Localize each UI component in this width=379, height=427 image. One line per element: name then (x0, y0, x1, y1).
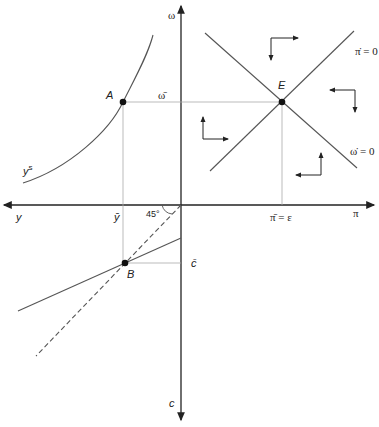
axis-label-y: y (16, 212, 22, 223)
consumption-line (18, 238, 181, 311)
phase-arrow-left (203, 117, 228, 139)
label-pi-bar: π̄ = ε (270, 212, 292, 223)
label-pi-dot-zero: π̇ = 0 (355, 46, 378, 57)
phase-arrow-bottom (296, 153, 321, 175)
axis-label-omega: ω (168, 10, 175, 21)
four-quadrant-diagram (0, 0, 379, 427)
label-omega-bar: ω̄ (158, 90, 165, 101)
point-label-e: E (278, 80, 285, 91)
point-b (122, 260, 129, 267)
phase-arrow-top (271, 38, 298, 60)
label-omega-dot-zero: ω̇ = 0 (350, 146, 374, 157)
45-degree-line (36, 205, 181, 356)
point-label-b: B (127, 269, 134, 280)
axis-label-c: c (169, 398, 175, 409)
point-e (279, 99, 286, 106)
point-label-a: A (106, 90, 113, 101)
label-ys: ys (23, 164, 33, 177)
phase-arrow-right (330, 90, 355, 112)
label-y-bar: ȳ (114, 212, 120, 223)
point-a (120, 99, 127, 106)
label-45-degrees: 45° (146, 210, 160, 219)
axis-label-pi: π (353, 208, 359, 219)
angle-arc (162, 205, 172, 214)
label-c-bar: c̄ (191, 258, 197, 269)
ys-curve (23, 35, 153, 183)
